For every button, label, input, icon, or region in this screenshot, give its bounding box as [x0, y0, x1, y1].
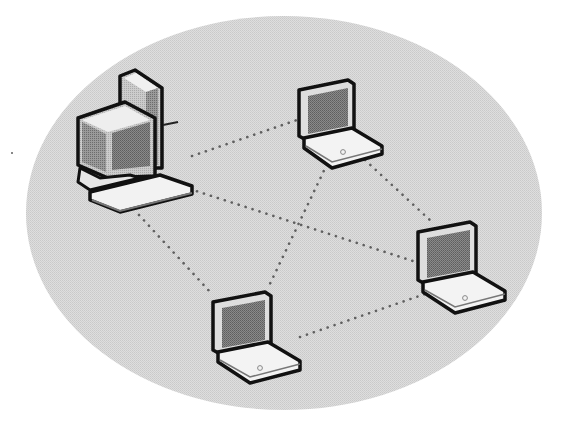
stray-dot [11, 152, 13, 154]
network-diagram [0, 0, 570, 422]
